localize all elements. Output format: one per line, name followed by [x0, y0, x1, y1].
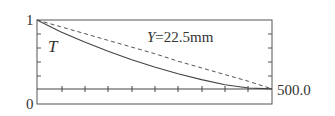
annotation-rest: =22.5mm — [155, 29, 213, 45]
curve-label: T — [48, 37, 59, 56]
right-ticks — [268, 34, 272, 76]
y-bottom-label: 0 — [26, 96, 34, 112]
y-top-label: 1 — [26, 12, 34, 28]
right-value-label: 500.0 — [277, 82, 311, 98]
left-ticks — [37, 34, 41, 76]
annotation-label: Y=22.5mm — [147, 29, 214, 45]
chart: 1 0 500.0 T Y=22.5mm — [0, 0, 335, 116]
